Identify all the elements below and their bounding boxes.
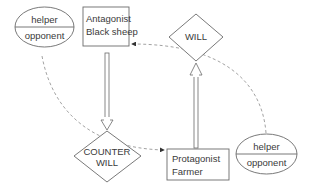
helper-label-left: helper	[31, 14, 57, 25]
actantial-diagram: helper opponent Antagonist Black sheep W…	[0, 0, 311, 189]
antagonist-sublabel: Black sheep	[86, 26, 138, 37]
helper-label-right: helper	[253, 141, 279, 152]
double-arrow-down	[101, 53, 113, 130]
helper-opponent-left: helper opponent	[15, 7, 74, 47]
will-diamond: WILL	[169, 14, 223, 61]
helper-opponent-right: helper opponent	[236, 134, 297, 174]
will-label: WILL	[185, 31, 207, 42]
opponent-label-right: opponent	[247, 157, 287, 168]
protagonist-sublabel: Farmer	[172, 166, 203, 177]
protagonist-box: Protagonist Farmer	[167, 149, 229, 180]
protagonist-label: Protagonist	[172, 153, 220, 164]
counter-label: COUNTER	[84, 146, 131, 157]
opponent-label-left: opponent	[25, 30, 65, 41]
counter-will-label: WILL	[96, 157, 118, 168]
counter-will-diamond: COUNTER WILL	[74, 131, 141, 182]
antagonist-box: Antagonist Black sheep	[83, 7, 138, 46]
double-arrow-up	[190, 63, 202, 148]
antagonist-label: Antagonist	[86, 13, 131, 24]
